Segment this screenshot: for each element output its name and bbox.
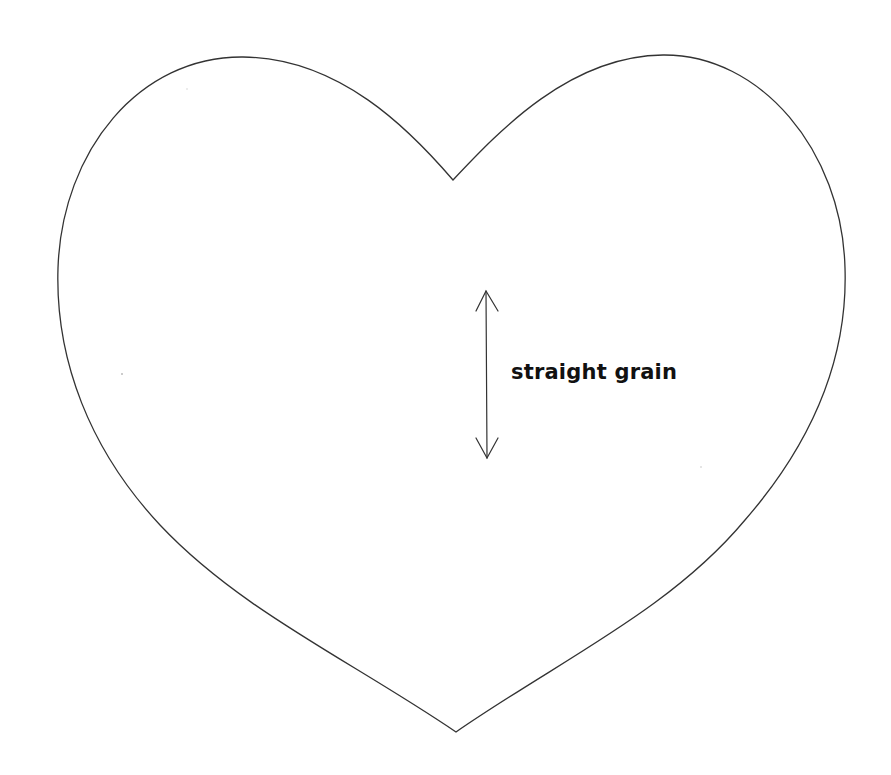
pattern-drawing — [0, 0, 891, 775]
scan-speck — [186, 88, 188, 90]
grain-label: straight grain — [511, 360, 677, 384]
pattern-page: straight grain — [0, 0, 891, 775]
scan-speck — [121, 373, 123, 375]
scan-speck — [700, 466, 702, 468]
grain-arrow-icon — [476, 291, 498, 458]
heart-outline — [58, 55, 845, 732]
